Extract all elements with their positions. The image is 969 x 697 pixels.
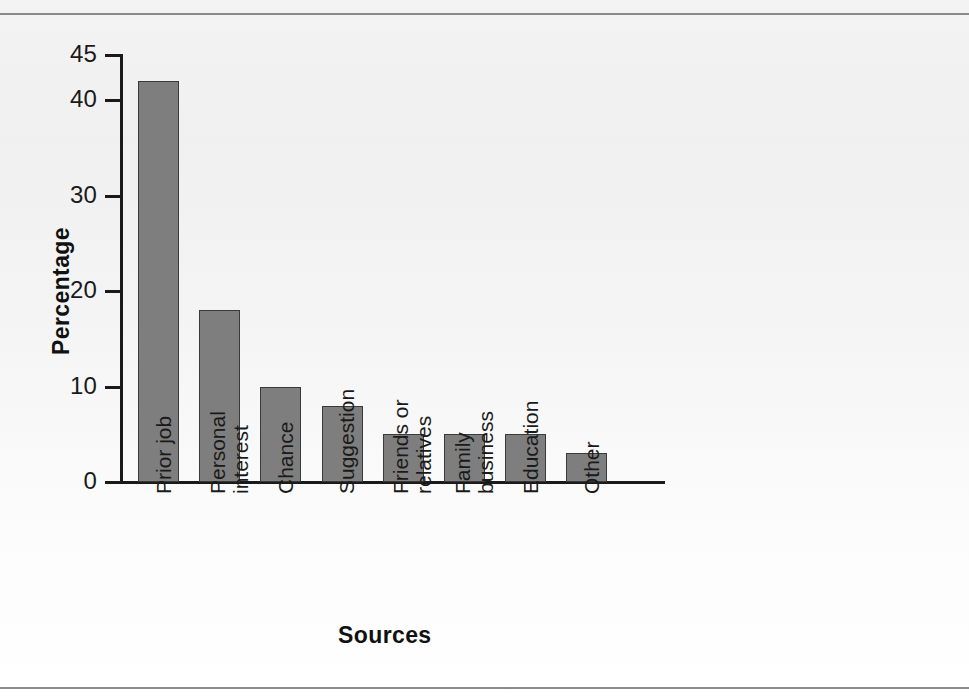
x-axis-title: Sources xyxy=(338,622,432,649)
y-axis-line xyxy=(120,54,123,484)
x-axis-tick-label-line: Other xyxy=(581,441,604,494)
bar-chart-figure: 01020304045 Prior jobPersonalinterestCha… xyxy=(0,0,969,697)
x-axis-tick-label: Familybusiness xyxy=(452,411,497,494)
x-axis-tick-label: Suggestion xyxy=(336,389,359,494)
x-axis-tick-label-line: Friends or xyxy=(390,399,413,494)
x-axis-tick-label: Chance xyxy=(275,422,298,494)
y-axis-tick-mark xyxy=(105,195,121,198)
x-axis-tick-label-line: Personal xyxy=(207,411,230,494)
x-axis-tick-label-line: Suggestion xyxy=(336,389,359,494)
y-axis-title: Percentage xyxy=(48,227,75,355)
x-axis-tick-label-line: Family xyxy=(452,411,475,494)
y-axis-tick-mark xyxy=(105,290,121,293)
x-axis-tick-label-line: business xyxy=(474,411,497,494)
x-axis-tick-label-line: Education xyxy=(520,401,543,494)
y-axis-tick-mark xyxy=(105,54,121,57)
x-axis-tick-label-line: relatives xyxy=(413,399,436,494)
x-axis-tick-label: Friends orrelatives xyxy=(390,399,435,494)
y-axis-tick-label: 10 xyxy=(70,374,97,398)
y-axis-tick-mark xyxy=(105,481,121,484)
y-axis-tick-label: 40 xyxy=(70,87,97,111)
top-divider-rule xyxy=(0,13,969,15)
x-axis-tick-label: Other xyxy=(581,441,604,494)
x-axis-tick-label: Education xyxy=(520,401,543,494)
y-axis-tick-label: 0 xyxy=(83,469,97,493)
x-axis-tick-label-line: Prior job xyxy=(153,416,176,494)
y-axis-tick-mark xyxy=(105,99,121,102)
y-axis-tick-mark xyxy=(105,386,121,389)
bottom-divider-rule xyxy=(0,687,969,689)
x-axis-tick-label: Prior job xyxy=(153,416,176,494)
y-axis-tick-label: 30 xyxy=(70,183,97,207)
x-axis-tick-label: Personalinterest xyxy=(207,411,252,494)
x-axis-tick-label-line: Chance xyxy=(275,422,298,494)
x-axis-tick-label-line: interest xyxy=(229,411,252,494)
y-axis-tick-label: 45 xyxy=(70,42,97,66)
